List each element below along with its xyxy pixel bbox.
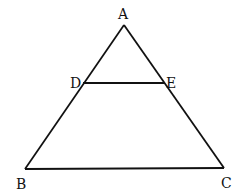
label-e: E xyxy=(166,75,176,91)
label-c: C xyxy=(221,175,232,191)
segment-ab xyxy=(25,25,124,169)
segment-ac xyxy=(124,25,224,168)
label-d: D xyxy=(70,75,81,91)
triangle-diagram: A D E B C xyxy=(0,0,243,196)
label-b: B xyxy=(16,176,26,192)
label-a: A xyxy=(117,6,129,22)
segment-bc xyxy=(25,168,224,169)
